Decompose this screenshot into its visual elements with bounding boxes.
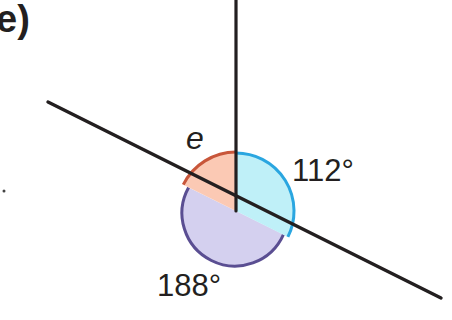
stray-dot [3, 190, 6, 193]
angle-188-label: 188° [157, 268, 221, 303]
angle-e-label: e [186, 120, 204, 156]
angle-112-label: 112° [292, 153, 354, 188]
angle-diagram: e) e 112° 188° [0, 0, 452, 320]
part-label: e) [0, 0, 30, 40]
straight-line [48, 102, 441, 298]
